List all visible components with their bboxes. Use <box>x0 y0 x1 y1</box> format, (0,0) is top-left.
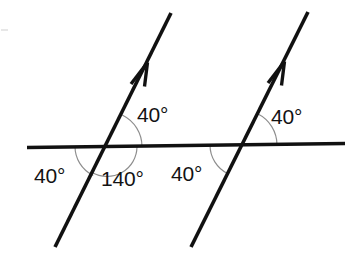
left-arrow-icon <box>131 63 148 87</box>
left-transversal-line <box>55 13 171 247</box>
horizontal-line <box>27 144 345 148</box>
arc-left-west-40 <box>75 147 93 176</box>
angle-label-lower-left: 140° <box>101 167 144 190</box>
geometry-canvas: 40° 140° 40° 40° 40° <box>0 0 351 256</box>
geometry-figure: 40° 140° 40° 40° 40° <box>0 0 351 256</box>
angle-label-upper-right: 40° <box>271 105 302 128</box>
angle-label-west-left: 40° <box>34 164 65 187</box>
angle-label-west-right: 40° <box>171 162 202 185</box>
angle-label-upper-left: 40° <box>137 103 168 126</box>
right-transversal-line <box>191 12 308 247</box>
arc-right-west-40 <box>210 145 228 174</box>
right-arrow-icon <box>268 62 285 86</box>
